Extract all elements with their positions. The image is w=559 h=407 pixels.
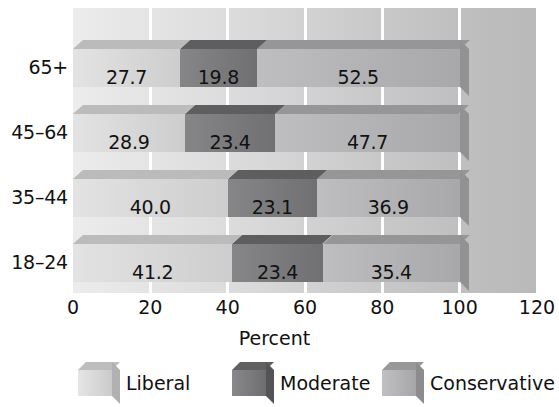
bar-segment[interactable]: 23.4 bbox=[185, 114, 275, 152]
legend-swatch-front bbox=[382, 370, 416, 396]
legend-swatch-front bbox=[232, 370, 266, 396]
bar-segment-face bbox=[323, 244, 460, 282]
bar-row: 41.223.435.4 bbox=[73, 235, 537, 282]
bar-segment-face bbox=[185, 114, 275, 152]
bar-segment-top-face bbox=[73, 105, 185, 114]
legend-swatch bbox=[232, 370, 266, 396]
x-axis-tick: 40 bbox=[198, 296, 258, 318]
bar-segment[interactable]: 36.9 bbox=[317, 179, 460, 217]
bar-segment[interactable]: 35.4 bbox=[323, 244, 460, 282]
legend-swatch-front bbox=[78, 370, 112, 396]
bar-segment-top-face bbox=[185, 105, 275, 114]
bar-segment-face bbox=[275, 114, 459, 152]
legend-label: Moderate bbox=[280, 370, 370, 396]
y-axis-label: 35–44 bbox=[0, 186, 68, 208]
plot-area: 27.719.852.528.923.447.740.023.136.941.2… bbox=[73, 8, 537, 293]
bar-segment-face bbox=[228, 179, 317, 217]
legend-swatch-side bbox=[112, 362, 120, 396]
x-axis-tick: 120 bbox=[507, 296, 559, 318]
legend-swatch-side bbox=[416, 362, 424, 396]
bar-segment[interactable]: 27.7 bbox=[73, 49, 180, 87]
bar-segment-side-face bbox=[460, 105, 469, 152]
y-axis-label: 45–64 bbox=[0, 121, 68, 143]
bar-segment-face bbox=[73, 49, 180, 87]
x-axis-tick: 0 bbox=[43, 296, 103, 318]
bar-segment-top-face bbox=[73, 170, 228, 179]
bar-segment-face bbox=[73, 114, 185, 152]
bar-segment-side-face bbox=[460, 40, 469, 87]
bar-segment[interactable]: 41.2 bbox=[73, 244, 232, 282]
bar-segment-top-face bbox=[73, 235, 232, 244]
bar-segment-face bbox=[257, 49, 460, 87]
legend-swatch-side bbox=[266, 362, 274, 396]
bar-segment-top-face bbox=[257, 40, 460, 49]
bar-segment[interactable]: 40.0 bbox=[73, 179, 228, 217]
bar-segment-side-face bbox=[460, 170, 469, 217]
legend-swatch-top bbox=[78, 362, 112, 370]
bar-row: 27.719.852.5 bbox=[73, 40, 537, 87]
x-axis-tick: 20 bbox=[120, 296, 180, 318]
legend-swatch-top bbox=[382, 362, 416, 370]
bar-segment[interactable]: 52.5 bbox=[257, 49, 460, 87]
bar-segment[interactable]: 23.4 bbox=[232, 244, 322, 282]
bar-segment-face bbox=[73, 244, 232, 282]
bar-segment[interactable]: 23.1 bbox=[228, 179, 317, 217]
bar-segment-face bbox=[180, 49, 257, 87]
bar-segment-top-face bbox=[275, 105, 459, 114]
x-axis-tick: 100 bbox=[430, 296, 490, 318]
bar-segment-top-face bbox=[180, 40, 257, 49]
x-axis-title: Percent bbox=[0, 327, 549, 349]
chart-legend: LiberalModerateConservative bbox=[0, 360, 549, 407]
legend-swatch-top bbox=[232, 362, 266, 370]
bar-segment-top-face bbox=[323, 235, 460, 244]
y-axis-label: 18–24 bbox=[0, 251, 68, 273]
bar-segment[interactable]: 47.7 bbox=[275, 114, 459, 152]
x-axis-tick: 60 bbox=[275, 296, 335, 318]
legend-swatch bbox=[382, 370, 416, 396]
bar-segment-face bbox=[232, 244, 322, 282]
legend-label: Conservative bbox=[430, 370, 555, 396]
bar-segment[interactable]: 19.8 bbox=[180, 49, 257, 87]
bar-segment-side-face bbox=[460, 235, 469, 282]
bar-row: 40.023.136.9 bbox=[73, 170, 537, 217]
y-axis-label: 65+ bbox=[0, 56, 68, 78]
bar-segment-top-face bbox=[317, 170, 460, 179]
legend-label: Liberal bbox=[126, 370, 190, 396]
bar-segment-top-face bbox=[228, 170, 317, 179]
bar-segment-top-face bbox=[73, 40, 180, 49]
bar-row: 28.923.447.7 bbox=[73, 105, 537, 152]
x-axis-tick: 80 bbox=[352, 296, 412, 318]
bar-segment-face bbox=[317, 179, 460, 217]
bar-segment-face bbox=[73, 179, 228, 217]
legend-swatch bbox=[78, 370, 112, 396]
bar-segment-top-face bbox=[232, 235, 322, 244]
bar-segment[interactable]: 28.9 bbox=[73, 114, 185, 152]
